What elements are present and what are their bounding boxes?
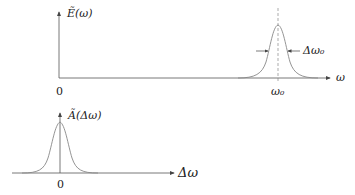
top-y-axis-label: Ẽ(ω): [67, 8, 93, 19]
bottom-origin-label: 0: [57, 179, 64, 190]
bottom-plot: [12, 113, 174, 173]
top-x-axis-label: ω: [336, 72, 345, 83]
bottom-y-axis-label: Ã(Δω): [68, 110, 101, 121]
bottom-x-axis-label: Δω: [178, 166, 198, 179]
top-plot: [59, 8, 330, 82]
omega0-tick-label: ω₀: [271, 86, 284, 97]
delta-omega0-label: Δω₀: [303, 45, 324, 56]
top-origin-label: 0: [56, 86, 63, 97]
